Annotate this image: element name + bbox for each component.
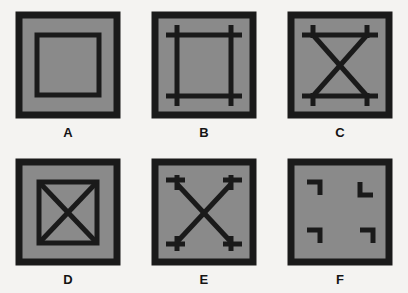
panel-a-label: A	[63, 126, 73, 139]
figure-container: A B	[0, 0, 408, 293]
outer-square	[19, 15, 117, 115]
panel-e-graphic	[151, 158, 257, 266]
panel-d-graphic	[15, 158, 121, 266]
panel-b-graphic	[151, 11, 257, 119]
panel-a-graphic	[15, 11, 121, 119]
panel-c: C	[272, 0, 408, 147]
outer-square	[155, 15, 253, 115]
panel-f-graphic	[287, 158, 393, 266]
panel-d: D	[0, 147, 136, 293]
panel-b-label: B	[199, 126, 209, 139]
panel-c-label: C	[335, 126, 345, 139]
panel-e-label: E	[200, 273, 209, 286]
panel-f-label: F	[336, 273, 344, 286]
panel-c-graphic	[287, 11, 393, 119]
panel-b: B	[136, 0, 272, 147]
panel-a: A	[0, 0, 136, 147]
panel-grid: A B	[0, 0, 408, 293]
outer-square	[291, 162, 389, 262]
panel-e: E	[136, 147, 272, 293]
panel-f: F	[272, 147, 408, 293]
panel-d-label: D	[63, 273, 73, 286]
